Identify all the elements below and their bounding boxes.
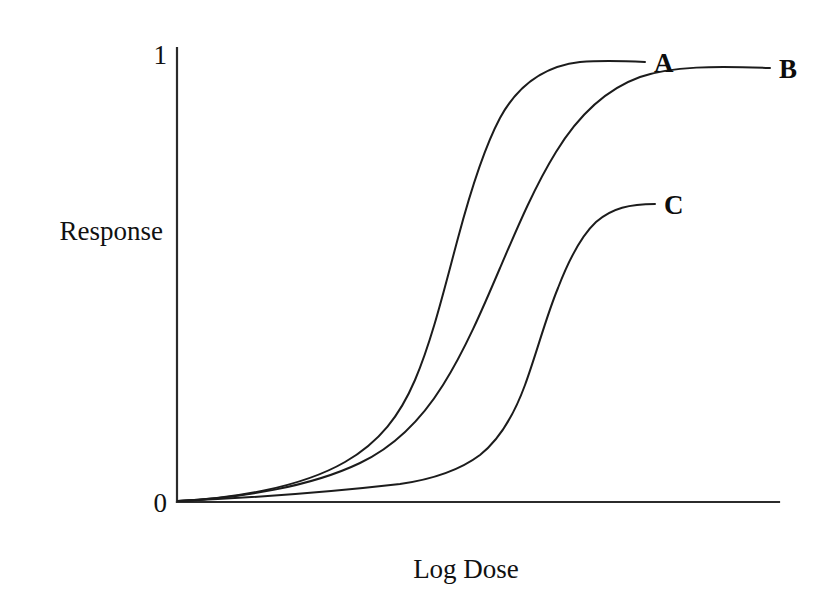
chart-background xyxy=(0,0,835,609)
curve-label-c: C xyxy=(664,190,684,220)
y-axis-min-tick-label: 0 xyxy=(154,488,168,518)
x-axis-title: Log Dose xyxy=(413,554,519,584)
dose-response-chart: 1 0 Response Log Dose A B C xyxy=(0,0,835,609)
curve-label-b: B xyxy=(779,54,797,84)
y-axis-max-tick-label: 1 xyxy=(154,40,168,70)
curve-label-a: A xyxy=(654,48,674,78)
y-axis-title: Response xyxy=(60,216,164,246)
